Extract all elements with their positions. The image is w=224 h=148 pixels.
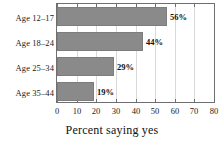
bar: [57, 57, 114, 76]
bar-value-label: 19%: [97, 87, 114, 97]
x-axis-title: Percent saying yes: [0, 123, 224, 138]
x-tick-label: 50: [151, 106, 160, 117]
x-tick-label: 70: [190, 106, 199, 117]
x-tick-label: 10: [73, 106, 82, 117]
category-label: Age 25–34: [0, 63, 54, 73]
category-label: Age 12–17: [0, 13, 54, 23]
bar: [57, 7, 167, 26]
tick-mark: [214, 4, 215, 7]
bar-value-label: 56%: [170, 12, 187, 22]
tick-mark: [194, 99, 195, 102]
tick-mark: [175, 4, 176, 7]
x-tick-label: 80: [210, 106, 219, 117]
gridline: [194, 4, 195, 102]
x-tick-label: 30: [112, 106, 121, 117]
bar-value-label: 29%: [117, 62, 134, 72]
x-tick-label: 0: [55, 106, 59, 117]
bar: [57, 82, 94, 101]
category-label: Age 35–44: [0, 88, 54, 98]
tick-mark: [116, 99, 117, 102]
x-axis-tick-labels: 01020304050607080: [56, 106, 215, 118]
bar-chart: Age 12–17 Age 18–24 Age 25–34 Age 35–44 …: [0, 0, 224, 148]
tick-mark: [155, 99, 156, 102]
x-tick-label: 20: [92, 106, 101, 117]
tick-mark: [194, 4, 195, 7]
x-tick-label: 40: [132, 106, 141, 117]
tick-mark: [175, 99, 176, 102]
tick-mark: [136, 99, 137, 102]
tick-mark: [96, 99, 97, 102]
tick-mark: [214, 99, 215, 102]
plot-area: [56, 3, 215, 103]
x-tick-label: 60: [171, 106, 180, 117]
category-axis-labels: Age 12–17 Age 18–24 Age 25–34 Age 35–44: [0, 3, 54, 103]
category-label: Age 18–24: [0, 38, 54, 48]
bar-value-label: 44%: [146, 37, 163, 47]
bar: [57, 32, 143, 51]
